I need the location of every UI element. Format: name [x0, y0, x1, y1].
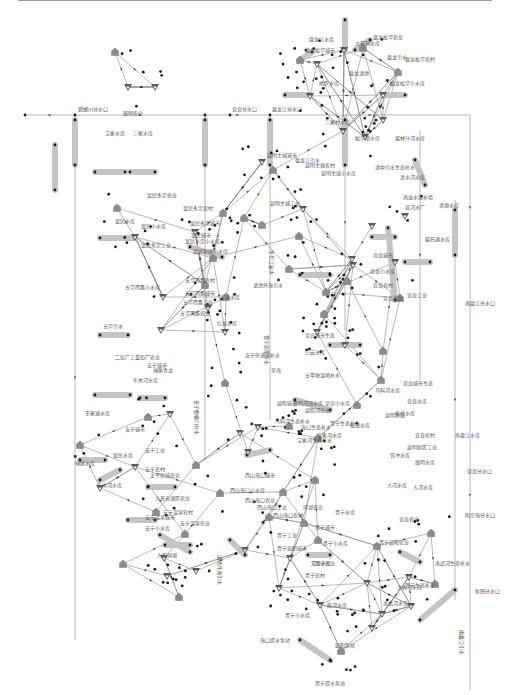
junction-node[interactable]: [230, 219, 233, 222]
demand-node-icon[interactable]: [77, 441, 84, 449]
reservoir-icon[interactable]: [131, 464, 139, 471]
junction-node[interactable]: [346, 630, 349, 633]
junction-node[interactable]: [211, 367, 214, 370]
junction-node[interactable]: [371, 236, 374, 239]
junction-node[interactable]: [97, 434, 100, 437]
junction-node[interactable]: [147, 564, 150, 567]
junction-node[interactable]: [381, 586, 384, 589]
demand-node-icon[interactable]: [217, 489, 224, 497]
junction-node[interactable]: [454, 589, 457, 592]
junction-node[interactable]: [302, 330, 305, 333]
junction-node[interactable]: [333, 322, 336, 325]
reservoir-icon[interactable]: [348, 256, 356, 263]
junction-node[interactable]: [287, 254, 290, 257]
junction-node[interactable]: [332, 66, 335, 69]
junction-node[interactable]: [351, 328, 354, 331]
junction-node[interactable]: [394, 236, 397, 239]
junction-node[interactable]: [123, 236, 126, 239]
junction-node[interactable]: [279, 594, 282, 597]
reservoir-icon[interactable]: [157, 327, 165, 334]
junction-node[interactable]: [166, 581, 169, 584]
junction-node[interactable]: [125, 241, 128, 244]
junction-node[interactable]: [282, 63, 285, 66]
demand-node-icon[interactable]: [344, 277, 351, 285]
junction-node[interactable]: [383, 559, 386, 562]
junction-node[interactable]: [99, 479, 102, 482]
junction-node[interactable]: [272, 178, 275, 181]
river-reach[interactable]: [400, 552, 420, 562]
reservoir-icon[interactable]: [163, 573, 171, 580]
junction-node[interactable]: [364, 125, 367, 128]
junction-node[interactable]: [269, 449, 272, 452]
junction-node[interactable]: [369, 130, 372, 133]
junction-node[interactable]: [379, 105, 382, 108]
junction-node[interactable]: [99, 334, 102, 337]
junction-node[interactable]: [340, 252, 343, 255]
junction-node[interactable]: [361, 131, 364, 134]
demand-node-icon[interactable]: [112, 48, 119, 56]
junction-node[interactable]: [216, 313, 219, 316]
junction-node[interactable]: [419, 619, 422, 622]
junction-node[interactable]: [414, 159, 417, 162]
junction-node[interactable]: [393, 609, 396, 612]
junction-node[interactable]: [293, 47, 296, 50]
reservoir-icon[interactable]: [124, 84, 132, 91]
junction-node[interactable]: [329, 660, 332, 663]
junction-node[interactable]: [448, 515, 451, 518]
junction-node[interactable]: [181, 218, 184, 221]
junction-node[interactable]: [236, 231, 239, 234]
reservoir-icon[interactable]: [192, 568, 200, 575]
junction-node[interactable]: [424, 184, 427, 187]
junction-node[interactable]: [354, 665, 357, 668]
junction-node[interactable]: [363, 117, 366, 120]
junction-node[interactable]: [153, 295, 156, 298]
demand-node-icon[interactable]: [145, 413, 152, 421]
junction-node[interactable]: [262, 460, 265, 463]
junction-node[interactable]: [333, 307, 336, 310]
junction-node[interactable]: [137, 398, 140, 401]
junction-node[interactable]: [189, 551, 192, 554]
demand-node-icon[interactable]: [266, 513, 273, 521]
junction-node[interactable]: [312, 322, 315, 325]
junction-node[interactable]: [206, 319, 209, 322]
junction-node[interactable]: [175, 578, 178, 581]
junction-node[interactable]: [299, 274, 302, 277]
junction-node[interactable]: [300, 495, 303, 498]
junction-node[interactable]: [74, 164, 77, 167]
junction-node[interactable]: [344, 19, 347, 22]
junction-node[interactable]: [369, 155, 372, 158]
junction-node[interactable]: [315, 218, 318, 221]
demand-node-icon[interactable]: [259, 221, 266, 229]
junction-node[interactable]: [200, 543, 203, 546]
junction-node[interactable]: [166, 564, 169, 567]
junction-node[interactable]: [333, 317, 336, 320]
junction-node[interactable]: [74, 455, 77, 458]
junction-node[interactable]: [355, 625, 358, 628]
junction-node[interactable]: [164, 397, 167, 400]
junction-node[interactable]: [344, 164, 347, 167]
demand-node-icon[interactable]: [120, 560, 127, 568]
junction-node[interactable]: [294, 255, 297, 258]
junction-node[interactable]: [262, 521, 265, 524]
junction-node[interactable]: [129, 171, 132, 174]
junction-node[interactable]: [253, 225, 256, 228]
junction-node[interactable]: [343, 412, 346, 415]
junction-node[interactable]: [328, 272, 331, 275]
junction-node[interactable]: [234, 552, 237, 555]
junction-node[interactable]: [286, 166, 289, 169]
junction-node[interactable]: [284, 568, 287, 571]
junction-node[interactable]: [388, 205, 391, 208]
reservoir-icon[interactable]: [363, 580, 371, 587]
junction-node[interactable]: [184, 570, 187, 573]
junction-node[interactable]: [279, 52, 282, 55]
junction-node[interactable]: [296, 86, 299, 89]
demand-node-icon[interactable]: [312, 476, 319, 484]
junction-node[interactable]: [172, 578, 175, 581]
junction-node[interactable]: [359, 352, 362, 355]
junction-node[interactable]: [269, 114, 272, 117]
junction-node[interactable]: [154, 171, 157, 174]
junction-node[interactable]: [290, 589, 293, 592]
junction-node[interactable]: [343, 274, 346, 277]
junction-node[interactable]: [363, 562, 366, 565]
junction-node[interactable]: [287, 414, 290, 417]
